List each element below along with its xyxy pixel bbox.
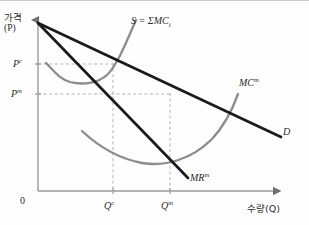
curve-label-mc-monopoly: MCm bbox=[239, 76, 259, 89]
y-tick-pm-sup: m bbox=[17, 87, 22, 94]
x-tick-label-qm: Qm bbox=[161, 199, 173, 212]
curve-label-mrm-base: MR bbox=[190, 172, 204, 183]
curve-label-supply-sigma: ΣMC bbox=[148, 15, 169, 26]
curve-label-mr-monopoly: MRm bbox=[190, 171, 209, 184]
y-axis-title-main: 가격 bbox=[4, 12, 22, 23]
axis-tick-marks bbox=[35, 64, 170, 194]
curve-label-mrm-sup: m bbox=[204, 171, 209, 178]
y-tick-pc-sup: c bbox=[19, 57, 22, 64]
x-tick-label-qc: Qc bbox=[104, 199, 114, 212]
economics-chart-figure: 가격 (P) 수량(Q) 0 Pc Pm Qc Qm S = ΣMCi MCm … bbox=[0, 0, 309, 225]
curve-label-mcm-sup: m bbox=[254, 76, 259, 83]
x-tick-qc-sup: c bbox=[111, 199, 114, 206]
curve-label-supply-equals: = bbox=[136, 15, 148, 26]
y-tick-label-pc: Pc bbox=[13, 57, 22, 70]
y-tick-label-pm: Pm bbox=[11, 87, 22, 100]
axis-lines bbox=[38, 20, 280, 191]
supply-curve-s-sigma-mc bbox=[46, 20, 136, 83]
y-axis-title-symbol: (P) bbox=[4, 23, 16, 33]
x-axis-title: 수량(Q) bbox=[247, 204, 280, 214]
curve-label-mcm-base: MC bbox=[239, 77, 254, 88]
x-tick-qm-sup: m bbox=[168, 199, 173, 206]
curve-label-demand: D bbox=[283, 127, 290, 138]
reference-lines bbox=[38, 63, 172, 191]
origin-label: 0 bbox=[20, 196, 25, 207]
curve-label-supply: S = ΣMCi bbox=[131, 16, 171, 28]
curve-label-supply-sub: i bbox=[169, 21, 171, 28]
chart-plot-area bbox=[0, 1, 309, 225]
y-axis-title: 가격 (P) bbox=[4, 13, 22, 34]
